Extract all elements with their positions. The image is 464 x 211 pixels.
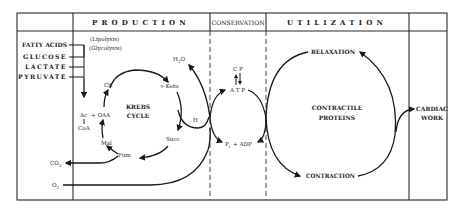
header-conservation: CONSERVATION [212, 19, 265, 26]
label-h2o: H2O [173, 56, 185, 64]
label-fum: Fum [118, 152, 131, 158]
label-cp: C P [233, 66, 243, 72]
substrate-pyruvate: PYRUVATE [18, 73, 67, 80]
substrate-fatty-acids: FATTY ACIDS [22, 41, 67, 48]
header-utilization: UTILIZATION [287, 18, 387, 27]
label-contraction: CONTRACTION [306, 172, 355, 179]
krebs-title-2: CYCLE [127, 112, 150, 119]
label-mal: Mal [101, 140, 112, 146]
note-glycolysis: (Glycolysis) [89, 45, 122, 52]
contractile-cycle: RELAXATION CONTRACTION CONTRACTILE PROTE… [266, 48, 448, 179]
label-relaxation: RELAXATION [311, 48, 355, 55]
krebs-title-1: KREBS [126, 103, 150, 110]
substrate-lactate: LACTATE [25, 63, 67, 70]
label-contractile: CONTRACTILE [312, 104, 363, 111]
label-coa: CoA [78, 125, 91, 131]
substrate-glucose: GLUCOSE [23, 53, 67, 60]
label-h: H [193, 117, 198, 123]
label-pi: Pi [225, 141, 231, 149]
label-acetyl: Ac [79, 112, 87, 118]
label-o2: O2 [52, 182, 60, 190]
atp-cycle: A T P C P Pi + ADP [210, 66, 266, 149]
label-co2: CO2 [50, 160, 62, 168]
header-production: PRODUCTION [92, 18, 190, 27]
label-keto: ∝-Keto [160, 83, 179, 89]
label-adp: + ADP [233, 141, 252, 147]
label-cit: Cit [104, 82, 113, 88]
krebs-cycle: KREBS CYCLE Cit ∝-Keto Succ Fum Mal Ac +… [78, 70, 209, 158]
note-lipolysis: (Lipolysis) [90, 36, 119, 43]
gas-exchange: CO2 O2 H2O [50, 56, 210, 190]
energy-metabolism-diagram: PRODUCTION CONSERVATION UTILIZATION FATT… [0, 0, 464, 211]
label-proteins: PROTEINS [319, 114, 355, 121]
label-succ: Succ [166, 136, 180, 142]
label-oaa: + OAA [91, 112, 111, 118]
label-atp: A T P [229, 87, 245, 93]
table-frame [17, 13, 447, 200]
label-cardiac: CARDIAC [416, 105, 448, 112]
label-work: WORK [420, 114, 444, 121]
